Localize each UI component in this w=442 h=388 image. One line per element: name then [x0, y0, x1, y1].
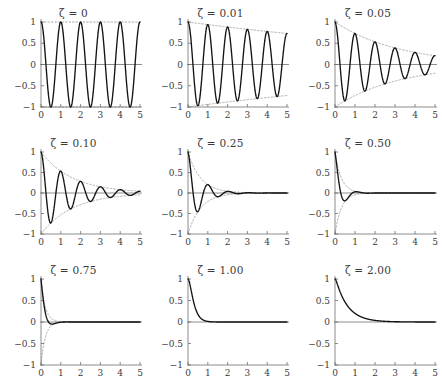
x-tick-label: 1	[352, 368, 358, 378]
y-tick-label: 0.5	[316, 296, 331, 306]
y-tick-label: −1	[317, 360, 330, 370]
x-tick-label: 1	[58, 110, 64, 120]
y-tick-label: 0	[324, 188, 330, 198]
plot-canvas-5: −1−0.500.51012345	[294, 130, 442, 257]
damped-oscillation-figure: −1−0.500.51012345 ζ = 0 −1−0.500.5101234…	[0, 0, 442, 388]
plot-canvas-7: −1−0.500.51012345	[147, 257, 294, 388]
x-tick-label: 1	[352, 110, 358, 120]
x-tick-label: 3	[98, 237, 104, 247]
lower-envelope	[41, 322, 140, 365]
y-tick-label: 0	[30, 188, 36, 198]
plot-canvas-1: −1−0.500.51012345	[147, 0, 294, 130]
y-tick-label: 0.5	[22, 168, 37, 178]
x-tick-label: 2	[78, 237, 84, 247]
x-tick-label: 1	[205, 237, 211, 247]
x-tick-label: 1	[58, 237, 64, 247]
response-curve	[188, 152, 287, 212]
x-tick-label: 4	[412, 368, 418, 378]
x-tick-label: 0	[332, 368, 338, 378]
plot-canvas-8: −1−0.500.51012345	[294, 257, 442, 388]
plot-panel-5: −1−0.500.51012345 ζ = 0.50	[294, 130, 442, 257]
plot-panel-3: −1−0.500.51012345 ζ = 0.10	[0, 130, 147, 257]
x-tick-label: 2	[78, 368, 84, 378]
plot-panel-8: −1−0.500.51012345 ζ = 2.00	[294, 257, 442, 388]
y-tick-label: 0.5	[22, 296, 37, 306]
x-tick-label: 5	[284, 237, 290, 247]
y-tick-label: 0.5	[169, 296, 184, 306]
lower-envelope	[335, 193, 435, 234]
y-tick-label: 0	[177, 188, 183, 198]
x-tick-label: 0	[332, 237, 338, 247]
response-curve	[188, 279, 287, 322]
y-tick-label: −1	[23, 102, 36, 112]
x-tick-label: 2	[372, 237, 378, 247]
x-tick-label: 4	[412, 110, 418, 120]
response-curve	[41, 152, 140, 223]
x-tick-label: 4	[264, 368, 270, 378]
plot-canvas-2: −1−0.500.51012345	[294, 0, 442, 130]
y-tick-label: 1	[30, 17, 36, 27]
x-tick-label: 3	[98, 110, 104, 120]
panel-grid: −1−0.500.51012345 ζ = 0 −1−0.500.5101234…	[0, 0, 442, 388]
y-tick-label: −0.5	[161, 81, 183, 91]
plot-panel-7: −1−0.500.51012345 ζ = 1.00	[147, 257, 294, 388]
y-tick-label: 0	[177, 317, 183, 327]
x-tick-label: 4	[264, 237, 270, 247]
y-tick-label: −1	[23, 229, 36, 239]
y-tick-label: −1	[317, 229, 330, 239]
x-tick-label: 0	[38, 110, 44, 120]
y-tick-label: 0	[324, 317, 330, 327]
x-tick-label: 4	[412, 237, 418, 247]
y-tick-label: 1	[177, 147, 183, 157]
x-tick-label: 5	[137, 237, 143, 247]
plot-panel-4: −1−0.500.51012345 ζ = 0.25	[147, 130, 294, 257]
x-tick-label: 5	[137, 368, 143, 378]
x-tick-label: 5	[284, 368, 290, 378]
lower-envelope	[41, 195, 140, 234]
x-tick-label: 1	[58, 368, 64, 378]
y-tick-label: 1	[324, 274, 330, 284]
x-tick-label: 5	[432, 368, 438, 378]
y-tick-label: 0.5	[316, 168, 331, 178]
y-tick-label: 0	[30, 60, 36, 70]
plot-panel-1: −1−0.500.51012345 ζ = 0.01	[147, 0, 294, 130]
upper-envelope	[41, 152, 140, 191]
plot-panel-6: −1−0.500.51012345 ζ = 0.75	[0, 257, 147, 388]
x-tick-label: 5	[137, 110, 143, 120]
plot-panel-0: −1−0.500.51012345 ζ = 0	[0, 0, 147, 130]
y-tick-label: −0.5	[14, 81, 36, 91]
response-curve	[335, 152, 435, 201]
x-tick-label: 2	[225, 368, 231, 378]
x-tick-label: 5	[432, 110, 438, 120]
y-tick-label: −0.5	[308, 339, 330, 349]
x-tick-label: 3	[245, 110, 251, 120]
x-tick-label: 0	[38, 368, 44, 378]
y-tick-label: −1	[170, 229, 183, 239]
x-tick-label: 1	[205, 110, 211, 120]
response-curve	[335, 279, 435, 322]
x-tick-label: 3	[392, 237, 398, 247]
y-tick-label: 1	[324, 147, 330, 157]
plot-panel-2: −1−0.500.51012345 ζ = 0.05	[294, 0, 442, 130]
y-tick-label: 1	[177, 17, 183, 27]
y-tick-label: −1	[317, 102, 330, 112]
plot-canvas-4: −1−0.500.51012345	[147, 130, 294, 257]
x-tick-label: 4	[264, 110, 270, 120]
y-tick-label: 1	[177, 274, 183, 284]
lower-envelope	[188, 193, 287, 234]
y-tick-label: 0.5	[169, 168, 184, 178]
x-tick-label: 3	[98, 368, 104, 378]
y-tick-label: 1	[30, 274, 36, 284]
upper-envelope	[188, 22, 287, 33]
y-tick-label: −0.5	[308, 209, 330, 219]
upper-envelope	[188, 152, 287, 193]
y-tick-label: −0.5	[161, 209, 183, 219]
y-tick-label: −1	[170, 360, 183, 370]
x-tick-label: 2	[225, 237, 231, 247]
y-tick-label: −0.5	[161, 339, 183, 349]
x-tick-label: 0	[185, 237, 191, 247]
lower-envelope	[335, 73, 435, 107]
y-tick-label: 0.5	[316, 38, 331, 48]
y-tick-label: 0.5	[169, 38, 184, 48]
y-tick-label: 1	[324, 17, 330, 27]
